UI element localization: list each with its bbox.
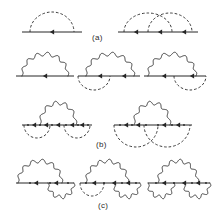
left-arrowhead-0 <box>43 74 47 79</box>
interaction-dashed-arc-below-1 <box>144 125 190 147</box>
interaction-dashed-arc-below-0 <box>114 125 158 147</box>
diagram-c3 <box>146 156 212 200</box>
left-arrowhead-4 <box>80 123 84 128</box>
photon-wavy-arc-above-0 <box>18 159 63 183</box>
left-arrowhead-0 <box>162 74 166 79</box>
photon-wavy-arc-above-0 <box>86 52 135 76</box>
left-arrowhead-2 <box>126 181 130 186</box>
diagram-c1 <box>14 156 76 200</box>
vertex-dot-1 <box>49 182 51 184</box>
left-arrowhead-1 <box>54 181 58 186</box>
vertex-dot-0 <box>85 182 87 184</box>
vertex-dot-0 <box>27 124 29 126</box>
interaction-dashed-arc-above-1 <box>148 13 192 32</box>
left-arrowhead-0 <box>162 181 166 186</box>
left-arrowhead-1 <box>190 74 194 79</box>
diagram-a2 <box>116 6 200 36</box>
vertex-dot-0 <box>119 124 121 126</box>
diagram-b1 <box>14 48 76 80</box>
left-arrowhead-0 <box>134 30 138 35</box>
photon-wavy-arc-above-0 <box>86 159 129 183</box>
vertex-dot-1 <box>39 124 41 126</box>
photon-wavy-arc-above-0 <box>158 159 199 183</box>
left-arrowhead-3 <box>176 123 180 128</box>
left-arrowhead-2 <box>162 123 166 128</box>
panel-label-a: (a) <box>92 33 103 42</box>
vertex-dot-1 <box>103 182 105 184</box>
left-arrowhead-1 <box>136 123 140 128</box>
vertex-dot-4 <box>171 124 173 126</box>
vertex-dot-1 <box>131 124 133 126</box>
photon-wavy-arc-above-0 <box>40 101 77 125</box>
interaction-dashed-arc-above-0 <box>30 12 74 32</box>
feynman-diagram-figure: (a)(b)(c) <box>0 0 220 222</box>
vertex-dot-4 <box>77 124 79 126</box>
vertex-dot-0 <box>29 182 31 184</box>
left-arrowhead-0 <box>32 123 36 128</box>
diagram-b2 <box>76 48 142 90</box>
vertex-dot-0 <box>155 182 157 184</box>
diagram-b3 <box>142 48 208 90</box>
diagram-c2 <box>78 156 142 200</box>
vertex-dot-2 <box>191 182 193 184</box>
photon-wavy-arc-above-0 <box>134 101 171 125</box>
panel-label-b: (b) <box>96 140 107 149</box>
photon-wavy-arc-below-1 <box>114 183 141 199</box>
interaction-dashed-arc-below-0 <box>174 76 206 90</box>
vertex-dot-3 <box>135 182 137 184</box>
vertex-dot-3 <box>205 182 207 184</box>
left-arrowhead-2 <box>182 30 186 35</box>
left-arrowhead-0 <box>92 181 96 186</box>
photon-wavy-arc-above-0 <box>22 52 69 76</box>
interaction-dashed-arc-above-0 <box>124 13 172 32</box>
left-arrowhead-0 <box>50 30 54 35</box>
interaction-dashed-arc-below-0 <box>80 183 104 196</box>
vertex-dot-3 <box>65 124 67 126</box>
left-arrowhead-0 <box>124 123 128 128</box>
photon-wavy-arc-below-1 <box>184 183 211 199</box>
diagram-b5 <box>112 98 194 142</box>
left-arrowhead-2 <box>196 181 200 186</box>
interaction-dashed-arc-below-0 <box>24 125 50 138</box>
left-arrowhead-1 <box>44 123 48 128</box>
vertex-dot-2 <box>51 124 53 126</box>
left-arrowhead-1 <box>158 30 162 35</box>
vertex-dot-2 <box>145 124 147 126</box>
panel-label-c: (c) <box>98 201 108 210</box>
vertex-dot-3 <box>157 124 159 126</box>
diagram-a1 <box>20 6 84 36</box>
vertex-dot-2 <box>121 182 123 184</box>
left-arrowhead-3 <box>70 123 74 128</box>
left-arrowhead-1 <box>182 181 186 186</box>
interaction-dashed-arc-below-1 <box>64 125 90 138</box>
left-arrowhead-0 <box>98 74 102 79</box>
left-arrowhead-0 <box>34 181 38 186</box>
photon-wavy-arc-above-0 <box>148 52 197 76</box>
photon-wavy-arc-below-0 <box>48 183 75 199</box>
left-arrowhead-1 <box>112 181 116 186</box>
interaction-dashed-arc-below-0 <box>78 76 110 90</box>
vertex-dot-2 <box>67 182 69 184</box>
diagram-b4 <box>20 98 94 142</box>
vertex-dot-1 <box>173 182 175 184</box>
left-arrowhead-1 <box>122 74 126 79</box>
left-arrowhead-2 <box>56 123 60 128</box>
vertex-dot-5 <box>183 124 185 126</box>
vertex-dot-5 <box>87 124 89 126</box>
photon-wavy-arc-below-0 <box>148 183 175 199</box>
